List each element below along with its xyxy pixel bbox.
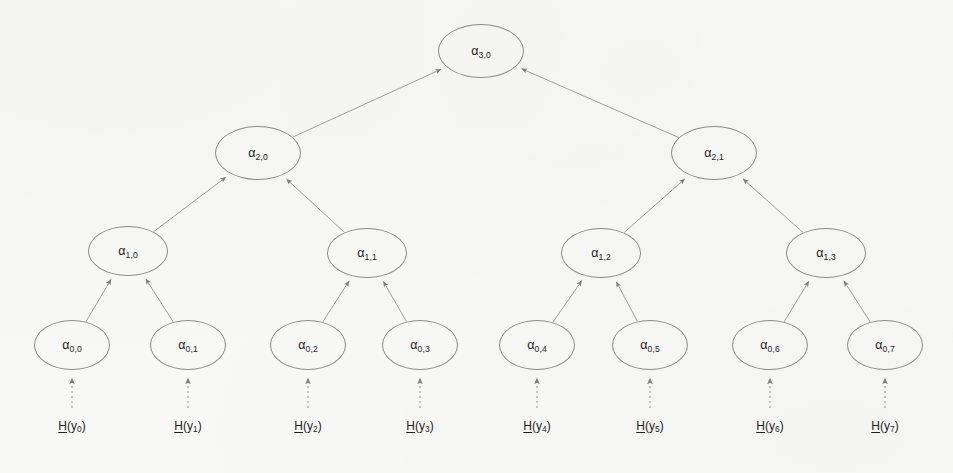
tree-node-a02[interactable]: α0,2 bbox=[270, 320, 346, 370]
hash-arg-subscript: 0 bbox=[77, 424, 82, 434]
tree-node-subscript: 2,0 bbox=[256, 151, 268, 161]
hash-arg-subscript: 2 bbox=[313, 424, 318, 434]
hash-arg-open: (y bbox=[415, 419, 425, 433]
tree-node-a11[interactable]: α1,1 bbox=[327, 228, 407, 278]
tree-edge-a12-to-a21 bbox=[624, 179, 685, 233]
tree-node-subscript: 1,2 bbox=[599, 251, 611, 261]
hash-function-symbol: H bbox=[58, 419, 67, 433]
leaf-input-edges-group bbox=[72, 378, 885, 408]
tree-node-label: α1,1 bbox=[357, 246, 377, 260]
tree-node-label: α0,1 bbox=[178, 338, 198, 352]
hash-arg-subscript: 5 bbox=[655, 424, 660, 434]
tree-node-subscript: 0,7 bbox=[883, 343, 895, 353]
hash-arg-close: ) bbox=[82, 419, 86, 433]
tree-node-subscript: 0,1 bbox=[186, 343, 198, 353]
leaf-input-label-hy5[interactable]: H(y5) bbox=[636, 419, 663, 433]
tree-node-label: α1,3 bbox=[816, 246, 836, 260]
tree-node-a13[interactable]: α1,3 bbox=[786, 228, 866, 278]
tree-edges-group bbox=[86, 69, 870, 323]
tree-edge-a11-to-a20 bbox=[287, 179, 345, 232]
tree-node-a07[interactable]: α0,7 bbox=[847, 320, 923, 370]
tree-node-subscript: 1,3 bbox=[824, 251, 836, 261]
hash-function-symbol: H bbox=[294, 419, 303, 433]
tree-edge-a20-to-a30 bbox=[293, 69, 441, 137]
hash-arg-close: ) bbox=[430, 419, 434, 433]
hash-arg-subscript: 3 bbox=[425, 424, 430, 434]
tree-edge-a07-to-a13 bbox=[844, 281, 870, 322]
hash-function-symbol: H bbox=[174, 419, 183, 433]
tree-edge-a04-to-a12 bbox=[553, 281, 582, 323]
hash-arg-close: ) bbox=[780, 419, 784, 433]
tree-node-subscript: 1,1 bbox=[365, 251, 377, 261]
leaf-input-label-hy7[interactable]: H(y7) bbox=[871, 419, 898, 433]
hash-arg-open: (y bbox=[183, 419, 193, 433]
tree-node-subscript: 0,6 bbox=[768, 343, 780, 353]
tree-node-subscript: 3,0 bbox=[479, 49, 491, 59]
tree-edge-a13-to-a21 bbox=[743, 179, 803, 233]
tree-edge-a02-to-a11 bbox=[323, 281, 349, 322]
tree-node-subscript: 0,2 bbox=[306, 343, 318, 353]
tree-node-subscript: 1,0 bbox=[126, 249, 138, 259]
leaf-input-label-hy3[interactable]: H(y3) bbox=[406, 419, 433, 433]
tree-node-a30[interactable]: α3,0 bbox=[438, 24, 524, 78]
tree-node-subscript: 0,4 bbox=[535, 343, 547, 353]
hash-function-symbol: H bbox=[406, 419, 415, 433]
hash-arg-close: ) bbox=[198, 419, 202, 433]
tree-node-a05[interactable]: α0,5 bbox=[612, 320, 688, 370]
tree-edge-a03-to-a11 bbox=[383, 281, 406, 321]
tree-node-label: α0,4 bbox=[527, 338, 547, 352]
hash-arg-open: (y bbox=[880, 419, 890, 433]
tree-edge-a06-to-a13 bbox=[784, 281, 809, 322]
tree-node-label: α0,7 bbox=[875, 338, 895, 352]
hash-arg-subscript: 1 bbox=[193, 424, 198, 434]
tree-node-label: α0,2 bbox=[298, 338, 318, 352]
tree-node-label: α0,0 bbox=[62, 338, 82, 352]
hash-arg-open: (y bbox=[67, 419, 77, 433]
tree-node-a04[interactable]: α0,4 bbox=[499, 320, 575, 370]
hash-arg-close: ) bbox=[895, 419, 899, 433]
hash-arg-subscript: 7 bbox=[890, 424, 895, 434]
diagram-canvas: α3,0α2,0α2,1α1,0α1,1α1,2α1,3α0,0α0,1α0,2… bbox=[0, 0, 953, 473]
hash-function-symbol: H bbox=[636, 419, 645, 433]
tree-node-a12[interactable]: α1,2 bbox=[561, 228, 641, 278]
hash-arg-close: ) bbox=[318, 419, 322, 433]
hash-arg-open: (y bbox=[532, 419, 542, 433]
tree-edge-a00-to-a10 bbox=[86, 279, 111, 321]
tree-node-a06[interactable]: α0,6 bbox=[732, 320, 808, 370]
tree-node-subscript: 0,5 bbox=[648, 343, 660, 353]
tree-node-subscript: 0,3 bbox=[418, 343, 430, 353]
leaf-input-label-hy4[interactable]: H(y4) bbox=[523, 419, 550, 433]
tree-node-a21[interactable]: α2,1 bbox=[671, 126, 757, 180]
hash-arg-close: ) bbox=[660, 419, 664, 433]
leaf-input-label-hy1[interactable]: H(y1) bbox=[174, 419, 201, 433]
hash-arg-open: (y bbox=[303, 419, 313, 433]
leaf-input-label-hy6[interactable]: H(y6) bbox=[756, 419, 783, 433]
hash-arg-subscript: 6 bbox=[775, 424, 780, 434]
leaf-input-label-hy2[interactable]: H(y2) bbox=[294, 419, 321, 433]
hash-arg-open: (y bbox=[765, 419, 775, 433]
tree-node-a03[interactable]: α0,3 bbox=[382, 320, 458, 370]
tree-node-label: α0,6 bbox=[760, 338, 780, 352]
tree-edge-a05-to-a12 bbox=[616, 282, 637, 322]
tree-edge-a21-to-a30 bbox=[522, 69, 679, 138]
tree-node-label: α2,0 bbox=[248, 146, 268, 160]
hash-function-symbol: H bbox=[871, 419, 880, 433]
tree-node-subscript: 0,0 bbox=[70, 343, 82, 353]
hash-arg-close: ) bbox=[547, 419, 551, 433]
tree-node-label: α2,1 bbox=[704, 146, 724, 160]
hash-arg-open: (y bbox=[645, 419, 655, 433]
leaf-input-label-hy0[interactable]: H(y0) bbox=[58, 419, 85, 433]
tree-node-label: α3,0 bbox=[471, 44, 491, 58]
tree-node-label: α0,5 bbox=[640, 338, 660, 352]
tree-edge-a01-to-a10 bbox=[146, 279, 173, 322]
hash-function-symbol: H bbox=[756, 419, 765, 433]
tree-node-subscript: 2,1 bbox=[712, 151, 724, 161]
tree-node-label: α1,0 bbox=[118, 244, 138, 258]
hash-function-symbol: H bbox=[523, 419, 532, 433]
tree-node-a10[interactable]: α1,0 bbox=[88, 226, 168, 276]
tree-node-a20[interactable]: α2,0 bbox=[215, 126, 301, 180]
hash-arg-subscript: 4 bbox=[542, 424, 547, 434]
tree-node-a00[interactable]: α0,0 bbox=[34, 320, 110, 370]
tree-node-a01[interactable]: α0,1 bbox=[150, 320, 226, 370]
tree-node-label: α1,2 bbox=[591, 246, 611, 260]
